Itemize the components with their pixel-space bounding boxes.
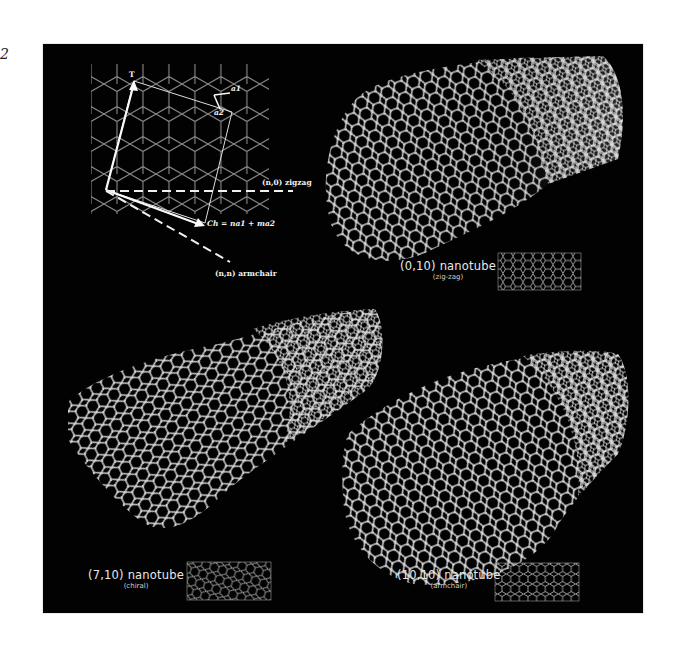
armchair-direction-label: (n,n) armchair [215,269,277,278]
margin-mark: 2 [0,42,8,66]
graphene-lattice-diagram [91,64,293,262]
zigzag-tube-subtitle: (zig-zag) [400,273,496,281]
a2-vector-label: a2 [214,108,224,117]
chiral-tube-subtitle: (chiral) [88,582,184,590]
translation-vector-label: T [129,70,135,79]
zigzag-direction-label: (n,0) zigzag [262,178,312,187]
chiral-inset-lattice [187,562,271,600]
zigzag-inset-lattice [498,253,581,290]
armchair-nanotube-model [342,351,628,585]
armchair-inset-lattice [495,563,579,601]
chiral-nanotube-model [68,309,382,528]
figure-artwork [43,44,643,613]
armchair-tube-caption: (10,10) nanotube (armchair) [397,568,501,590]
chiral-vector-label: Ch = na1 + ma2 [207,219,275,228]
chiral-tube-caption: (7,10) nanotube (chiral) [88,568,184,590]
chiral-tube-title: (7,10) nanotube [88,568,184,582]
armchair-tube-subtitle: (armchair) [397,582,501,590]
zigzag-tube-caption: (0,10) nanotube (zig-zag) [400,259,496,281]
zigzag-nanotube-model [326,56,623,261]
nanotube-figure-panel: T a1 a2 (n,0) zigzag Ch = na1 + ma2 (n,n… [43,44,643,613]
a1-vector-label: a1 [231,84,241,93]
zigzag-tube-title: (0,10) nanotube [400,259,496,273]
armchair-tube-title: (10,10) nanotube [397,568,501,582]
